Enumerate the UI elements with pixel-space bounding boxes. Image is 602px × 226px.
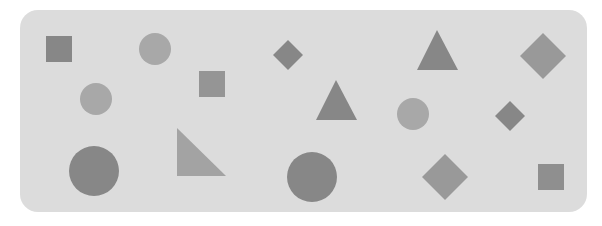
shape-layer	[46, 30, 566, 202]
circle-shape	[69, 146, 119, 196]
circle-shape	[80, 83, 112, 115]
square-shape	[199, 71, 225, 97]
circle-shape	[397, 98, 429, 130]
triangle-shape	[316, 80, 357, 120]
diamond-shape	[495, 101, 525, 131]
right-triangle-shape	[177, 128, 226, 176]
diamond-shape	[273, 40, 303, 70]
shapes-canvas	[0, 0, 602, 226]
diamond-shape	[422, 154, 468, 200]
triangle-shape	[417, 30, 458, 70]
square-shape	[538, 164, 564, 190]
diamond-shape	[520, 33, 566, 79]
square-shape	[46, 36, 72, 62]
circle-shape	[139, 33, 171, 65]
circle-shape	[287, 152, 337, 202]
